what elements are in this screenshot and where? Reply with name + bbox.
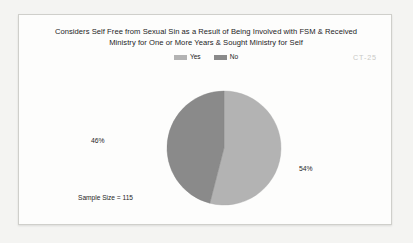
chart-legend: Yes No [19,53,393,61]
chart-card: Considers Self Free from Sexual Sin as a… [18,14,392,225]
sample-size-annotation: Sample Size = 115 [78,194,133,201]
pie-value-label-no: 46% [91,137,105,144]
watermark-label: CT-25 [353,53,377,62]
pie-slices [167,91,281,205]
pie-chart [149,77,299,220]
legend-label-no: No [230,53,238,61]
chart-title-line-2: Ministry for One or More Years & Sought … [29,37,383,48]
chart-title-line-1: Considers Self Free from Sexual Sin as a… [29,26,383,37]
legend-item-yes: Yes [174,53,201,61]
legend-item-no: No [214,53,238,61]
scanned-page: Considers Self Free from Sexual Sin as a… [0,0,413,243]
pie-value-label-yes: 54% [299,165,313,172]
pie-chart-svg [149,77,299,220]
legend-label-yes: Yes [190,53,201,61]
legend-swatch-yes [174,55,187,60]
legend-swatch-no [214,55,227,60]
chart-title: Considers Self Free from Sexual Sin as a… [29,26,383,48]
